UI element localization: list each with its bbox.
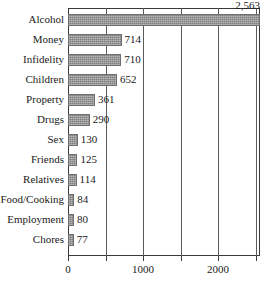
- x-tick-label-1000: 1000: [132, 262, 154, 276]
- category-label-property: Property: [0, 92, 64, 106]
- x-tick-2000: [218, 256, 219, 261]
- category-label-food-cooking: Food/Cooking: [0, 192, 64, 206]
- category-label-drugs: Drugs: [0, 112, 64, 126]
- bar-food-cooking: [68, 194, 74, 206]
- bar-sex: [68, 134, 78, 146]
- plot-area: 2,563714710652361290130125114848077: [68, 8, 260, 256]
- bar-row: 361: [68, 90, 260, 110]
- bar-infidelity: [68, 54, 121, 66]
- bar-row: 652: [68, 70, 260, 90]
- category-label-friends: Friends: [0, 152, 64, 166]
- bar-value-label: 84: [77, 192, 88, 206]
- category-label-infidelity: Infidelity: [0, 52, 64, 66]
- bar-value-label: 361: [98, 92, 115, 106]
- bar-row: 714: [68, 30, 260, 50]
- bar-row: 77: [68, 230, 260, 250]
- category-label-money: Money: [0, 32, 64, 46]
- bar-property: [68, 94, 95, 106]
- bar-value-label: 130: [81, 132, 98, 146]
- bar-relatives: [68, 174, 77, 186]
- bar-row: 710: [68, 50, 260, 70]
- bar-row: 130: [68, 130, 260, 150]
- bar-row: 80: [68, 210, 260, 230]
- bar-value-label: 652: [120, 72, 137, 86]
- category-label-employment: Employment: [0, 212, 64, 226]
- category-axis-labels: AlcoholMoneyInfidelityChildrenPropertyDr…: [0, 8, 66, 256]
- plot-frame-top: [68, 8, 260, 9]
- bar-alcohol: [68, 14, 260, 26]
- x-axis: 010002000: [68, 256, 260, 281]
- bar-value-label: 2,563: [235, 0, 260, 12]
- bar-value-label: 714: [125, 32, 142, 46]
- bar-row: 2,563: [68, 10, 260, 30]
- bar-employment: [68, 214, 74, 226]
- category-label-chores: Chores: [0, 232, 64, 246]
- category-label-alcohol: Alcohol: [0, 12, 64, 26]
- bar-chores: [68, 234, 74, 246]
- x-tick-1500: [181, 256, 182, 261]
- x-tick-label-2000: 2000: [207, 262, 229, 276]
- x-tick-0: [68, 256, 69, 261]
- bar-row: 125: [68, 150, 260, 170]
- bar-row: 290: [68, 110, 260, 130]
- bar-value-label: 125: [80, 152, 97, 166]
- bar-money: [68, 34, 122, 46]
- bar-chart: AlcoholMoneyInfidelityChildrenPropertyDr…: [0, 0, 268, 281]
- category-label-children: Children: [0, 72, 64, 86]
- bar-drugs: [68, 114, 90, 126]
- bar-row: 114: [68, 170, 260, 190]
- bar-value-label: 114: [80, 172, 96, 186]
- category-label-relatives: Relatives: [0, 172, 64, 186]
- x-tick-label-0: 0: [65, 262, 71, 276]
- bar-value-label: 77: [77, 232, 88, 246]
- x-tick-2500: [256, 256, 257, 261]
- bar-friends: [68, 154, 77, 166]
- bar-row: 84: [68, 190, 260, 210]
- x-tick-500: [106, 256, 107, 261]
- x-tick-1000: [143, 256, 144, 261]
- bar-children: [68, 74, 117, 86]
- bar-value-label: 290: [93, 112, 110, 126]
- bar-value-label: 80: [77, 212, 88, 226]
- bar-value-label: 710: [124, 52, 141, 66]
- category-label-sex: Sex: [0, 132, 64, 146]
